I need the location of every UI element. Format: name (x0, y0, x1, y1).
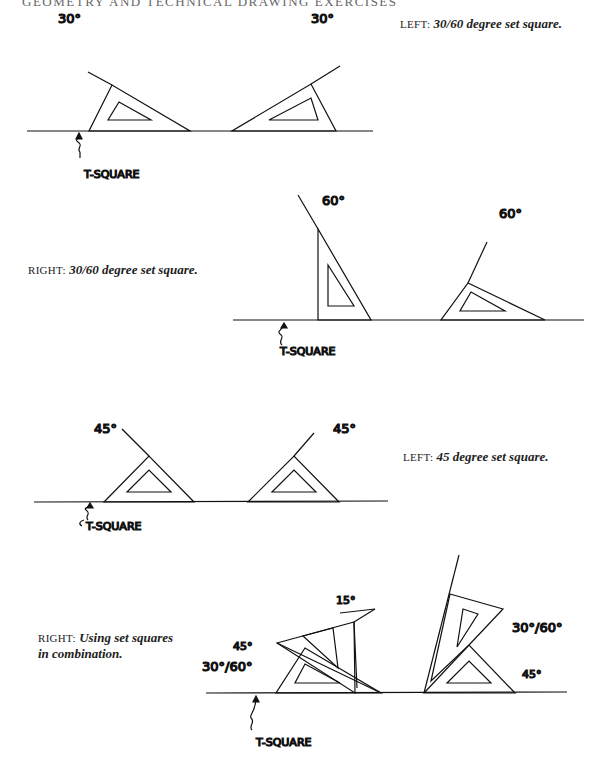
angle-label: 60° (499, 206, 522, 221)
set-square-cutout (295, 664, 340, 683)
set-square-right (441, 283, 545, 320)
angle-label: 60° (322, 193, 345, 208)
figure-2-30-60-set-squares (233, 195, 584, 345)
set-square-right (232, 84, 336, 131)
set-square-left (104, 456, 194, 502)
t-square-label: T-SQUARE (279, 345, 336, 358)
figure-4-combination-set-squares (206, 555, 567, 730)
set-square-cutout (457, 609, 478, 647)
angle-label: 45° (94, 421, 117, 436)
set-square-cutout (328, 265, 354, 306)
set-square-cutout (127, 470, 171, 492)
t-square-label: T-SQUARE (255, 736, 312, 749)
set-square-cutout (272, 470, 316, 492)
set-square-cutout (303, 628, 338, 668)
set-square-30-60 (276, 648, 381, 693)
t-square-label: T-SQUARE (85, 520, 142, 533)
angle-label: 45° (522, 668, 542, 681)
angle-label: 15° (336, 594, 356, 607)
drawings: 30° 30° T-SQUARE 60° 60° T-SQUARE 45° 45… (0, 0, 596, 771)
set-square-cutout (269, 98, 318, 120)
set-square-cutout (460, 292, 505, 311)
figure-1-30-60-set-squares (27, 66, 373, 158)
set-square-right (248, 456, 339, 502)
angle-label: 45° (333, 421, 356, 436)
angle-label: 45° (233, 640, 253, 653)
t-square-label: T-SQUARE (83, 168, 140, 181)
angle-label: 30° (58, 11, 81, 26)
angle-label: 30°/60° (202, 659, 252, 674)
set-square-30-60 (431, 594, 503, 681)
figure-3-45-set-squares (34, 429, 388, 526)
angle-label: 30° (311, 11, 334, 26)
set-square-cutout (447, 661, 491, 683)
set-square-left (89, 85, 190, 131)
angle-label: 30°/60° (512, 620, 562, 635)
